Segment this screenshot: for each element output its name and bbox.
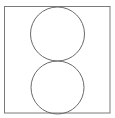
bottom-circle — [31, 61, 84, 114]
top-circle — [31, 7, 85, 61]
square-frame — [5, 7, 111, 114]
diagram-canvas — [0, 0, 115, 118]
